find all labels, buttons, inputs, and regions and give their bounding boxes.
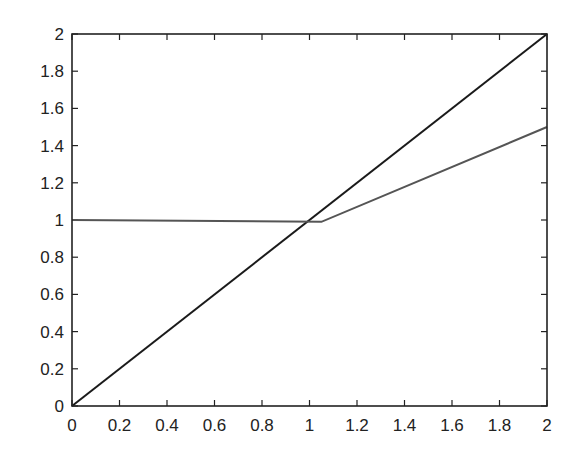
x-tick-label: 1.8 [488, 416, 512, 435]
x-tick-label: 0.8 [250, 416, 274, 435]
y-tick-label: 0.2 [40, 360, 64, 379]
y-tick-label: 1.8 [40, 62, 64, 81]
y-tick-label: 0 [55, 397, 64, 416]
x-tick-label: 0 [67, 416, 76, 435]
y-tick-label: 1.6 [40, 99, 64, 118]
y-tick-label: 0.8 [40, 248, 64, 267]
y-tick-label: 1 [55, 211, 64, 230]
x-tick-label: 0.6 [203, 416, 227, 435]
x-tick-label: 0.4 [155, 416, 179, 435]
x-tick-label: 1.4 [393, 416, 417, 435]
x-tick-label: 0.2 [108, 416, 132, 435]
y-tick-label: 0.6 [40, 285, 64, 304]
x-tick-label: 2 [542, 416, 551, 435]
y-tick-label: 1.2 [40, 174, 64, 193]
x-tick-label: 1.2 [345, 416, 369, 435]
series-line-piecewise [72, 127, 547, 222]
line-chart: 00.20.40.60.811.21.41.61.8200.20.40.60.8… [0, 0, 582, 452]
y-tick-label: 1.4 [40, 137, 64, 156]
y-tick-label: 0.4 [40, 323, 64, 342]
x-tick-label: 1.6 [440, 416, 464, 435]
x-tick-label: 1 [305, 416, 314, 435]
y-tick-label: 2 [55, 25, 64, 44]
